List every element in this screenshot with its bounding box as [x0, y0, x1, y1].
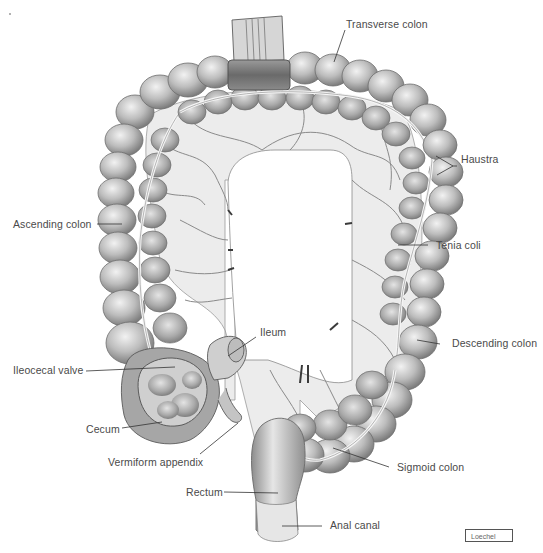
label-rectum: Rectum	[186, 486, 223, 498]
label-ileum: Ileum	[260, 326, 286, 338]
label-haustra: Haustra	[461, 153, 498, 165]
anal-canal	[256, 500, 298, 542]
label-descending-colon: Descending colon	[452, 337, 537, 349]
label-transverse-colon: Transverse colon	[346, 18, 428, 30]
illustrator-credit: Loechel	[465, 529, 513, 542]
label-cecum: Cecum	[86, 423, 120, 435]
large-intestine-diagram: Transverse colon Haustra Ascending colon…	[0, 0, 543, 553]
label-tenia-coli: Tenia coli	[436, 239, 481, 251]
label-ascending-colon: Ascending colon	[13, 218, 92, 230]
label-ileocecal-valve: Ileocecal valve	[13, 364, 83, 376]
mesentery-opening	[228, 150, 352, 383]
label-sigmoid-colon: Sigmoid colon	[397, 461, 464, 473]
label-anal-canal: Anal canal	[330, 519, 380, 531]
label-vermiform-appendix: Vermiform appendix	[108, 456, 203, 468]
cut-stump-top	[228, 16, 290, 90]
cecum	[121, 348, 219, 444]
stray-dot	[9, 13, 11, 15]
